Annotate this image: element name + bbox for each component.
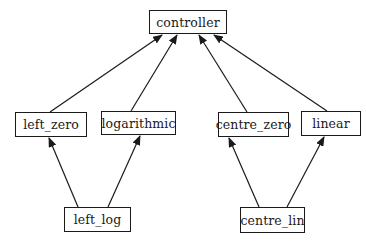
node-controller: controller [149,10,227,34]
node-logarithmic: logarithmic [101,111,176,135]
node-label: centre_zero [216,117,292,132]
edge-left_zero-to-controller [50,35,162,112]
node-label: linear [312,116,349,131]
edge-logarithmic-to-controller [131,35,177,111]
edge-centre_lin-to-linear [287,137,324,207]
node-left-log: left_log [64,207,131,232]
node-label: centre_lin [240,213,304,228]
class-hierarchy-diagram: controller left_zero logarithmic centre_… [0,0,366,245]
node-centre-zero: centre_zero [218,112,289,137]
node-left-zero: left_zero [15,112,87,137]
edge-centre_lin-to-centre_zero [229,138,259,207]
edge-linear-to-controller [214,35,327,111]
node-label: logarithmic [102,116,176,131]
node-label: controller [156,15,219,30]
node-centre-lin: centre_lin [240,207,305,233]
node-label: left_zero [23,117,79,132]
node-label: left_log [74,212,122,227]
edge-left_log-to-left_zero [49,138,78,207]
node-linear: linear [301,111,361,136]
edge-left_log-to-logarithmic [108,136,140,207]
edge-centre_zero-to-controller [199,35,247,112]
